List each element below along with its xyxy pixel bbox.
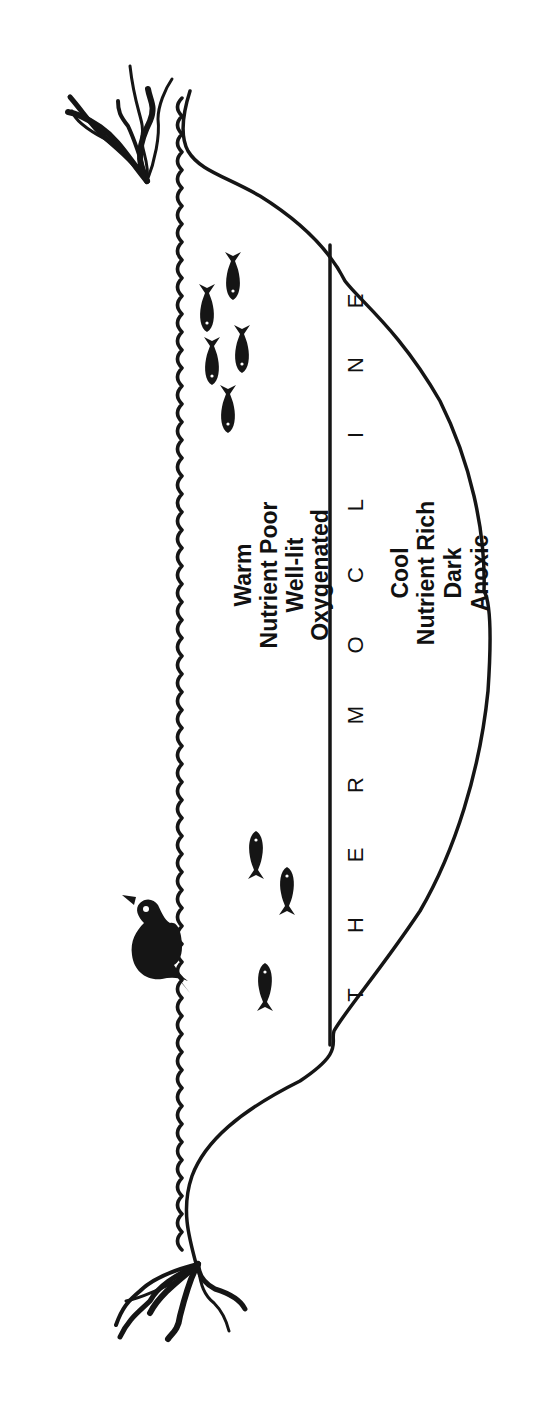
upper-layer-line-oxygen: Oxygenated	[307, 509, 333, 641]
thermocline-letter: O	[343, 636, 368, 653]
thermocline-letter: R	[343, 777, 368, 793]
thermocline-letter: N	[343, 357, 368, 373]
upper-layer-line-nutrient: Nutrient Poor	[256, 501, 282, 648]
fish-icon	[220, 385, 236, 433]
lower-layer-line-cool: Cool	[387, 547, 413, 598]
thermocline-letter: H	[343, 917, 368, 933]
fish-icon	[248, 831, 264, 879]
thermocline-label: T H E R M O C L I N E	[343, 294, 368, 1002]
thermocline-letter: C	[343, 567, 368, 583]
lower-layer-line-light: Dark	[440, 547, 466, 598]
fish-icon	[257, 963, 273, 1011]
thermocline-letter: E	[343, 848, 368, 863]
fish-left-group	[248, 831, 295, 1011]
fish-icon	[225, 252, 241, 300]
fish-right-group	[199, 252, 250, 433]
lake-diagram: T H E R M O C L I N E Warm Nutrient Poor…	[0, 0, 551, 1411]
lower-layer-description: Cool Nutrient Rich Dark Anoxic	[387, 501, 493, 645]
shore-plant-left-icon	[116, 1264, 245, 1339]
thermocline-letter: E	[343, 294, 368, 309]
thermocline-letter: I	[343, 432, 368, 438]
upper-layer-line-light: Well-lit	[282, 537, 308, 612]
thermocline-letter: L	[343, 499, 368, 511]
lower-layer-line-oxygen: Anoxic	[467, 534, 493, 611]
fish-icon	[279, 867, 295, 915]
upper-layer-description: Warm Nutrient Poor Well-lit Oxygenated	[230, 501, 333, 648]
lower-layer-line-nutrient: Nutrient Rich	[413, 501, 439, 645]
thermocline-letter: M	[343, 706, 368, 724]
shore-plant-right-icon	[68, 66, 172, 181]
fish-icon	[199, 284, 215, 332]
thermocline-letter: T	[343, 988, 368, 1001]
fish-icon	[204, 337, 220, 385]
fish-icon	[234, 325, 250, 373]
water-surface-line	[178, 98, 183, 1250]
upper-layer-line-warm: Warm	[230, 543, 256, 606]
